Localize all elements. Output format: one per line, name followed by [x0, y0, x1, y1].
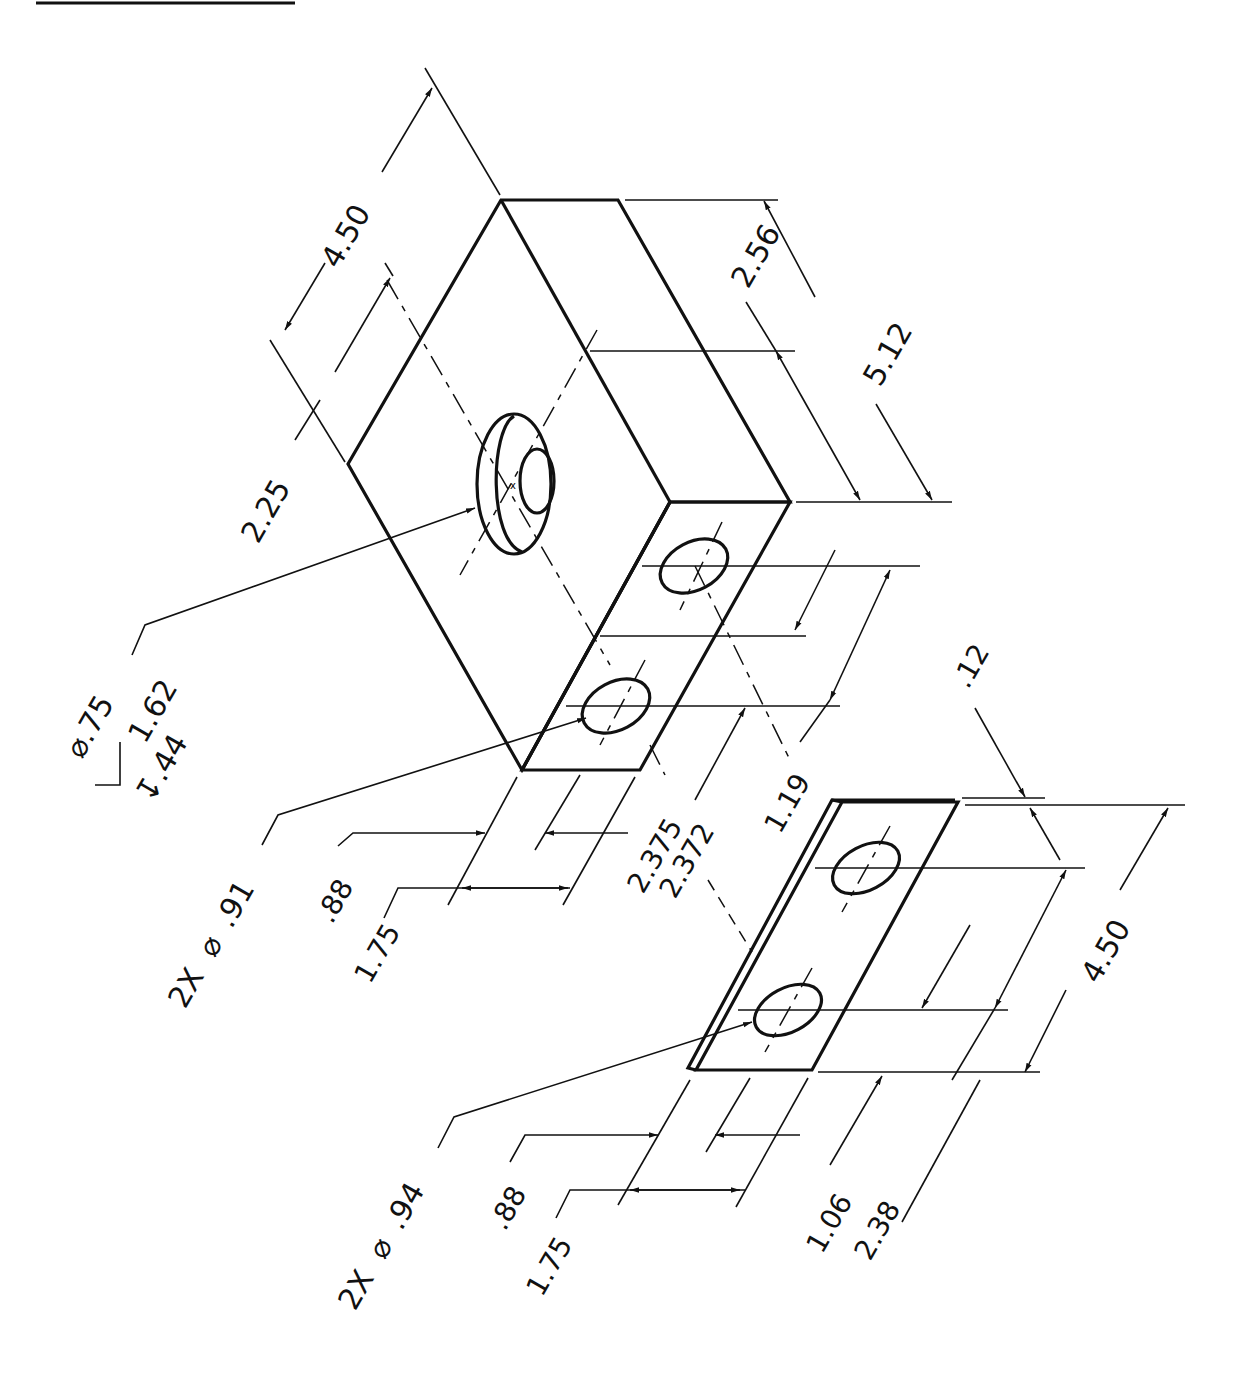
svg-text:1.75: 1.75: [519, 1231, 579, 1301]
svg-text:1.75: 1.75: [347, 918, 407, 988]
drawing-canvas: x 4.50 2.25: [0, 0, 1250, 1377]
plate-hole-2: [738, 968, 1008, 1052]
svg-text:2.56: 2.56: [724, 218, 788, 293]
counterbore-symbol: [95, 742, 120, 785]
svg-text:x: x: [510, 480, 516, 491]
plate-hole-1: [815, 826, 1085, 912]
plate-face: [696, 802, 958, 1070]
dim-plate-thickness: .12: [945, 638, 1185, 860]
svg-text:1.19: 1.19: [757, 768, 817, 838]
svg-text:5.12: 5.12: [856, 316, 920, 391]
plate-part: [688, 800, 1085, 1070]
front-hole-2: [566, 660, 840, 745]
svg-text:2X ⌀ .91: 2X ⌀ .91: [161, 874, 262, 1013]
dim-block-2-25: 2.25: [234, 263, 393, 549]
centerline: [695, 566, 790, 760]
svg-text:.88: .88: [482, 1180, 533, 1235]
svg-text:2.25: 2.25: [234, 473, 298, 548]
svg-text:.12: .12: [945, 638, 996, 693]
dim-hole-spacing: 2.375 2.372: [620, 813, 752, 952]
dim-block-bottom: .88 1.75: [309, 775, 635, 989]
svg-text:.88: .88: [309, 873, 360, 928]
svg-text:2X ⌀ .94: 2X ⌀ .94: [331, 1176, 432, 1315]
dim-plate-length: 4.50: [818, 808, 1168, 1080]
dim-plate-bottom: .88 1.75 1.06 2.38: [482, 1076, 980, 1302]
counterbore-callout: ⌀.75 1.62 ↧.44: [58, 508, 475, 809]
svg-text:4.50: 4.50: [1074, 913, 1138, 988]
counterbore-hole: x: [477, 414, 554, 554]
svg-text:4.50: 4.50: [314, 198, 378, 273]
svg-text:⌀.75: ⌀.75: [58, 689, 121, 763]
block-part: x: [348, 200, 920, 770]
